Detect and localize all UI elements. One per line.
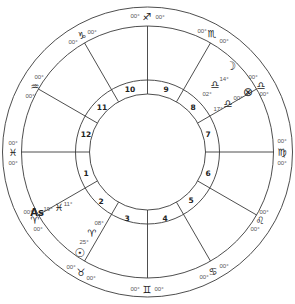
degree-label: 19° [43,206,53,212]
degree-label: 08° [94,220,104,226]
sign-scorpio: ♏︎00°00° [197,28,229,45]
taurus-icon: ♉︎ [77,267,86,278]
house-number-1: 1 [83,169,88,178]
house-number-2: 2 [98,197,103,206]
house-numbers: 123456789101112 [81,85,211,223]
placement-pisces-marker: ♓︎19°11° [43,201,72,213]
house-cusp-line [85,43,119,102]
sign-taurus: ♉︎00°00° [66,264,96,281]
libra-marker-1-icon: ♎︎ [211,79,220,90]
planet-placements: ☽︎14°♎︎02°⊗︎00°♎︎17°☉︎25°♈︎08°♓︎19°11° [43,59,253,260]
degree-label: 00° [130,286,140,292]
degree-label: 00° [259,91,269,97]
placement-aries-marker: ♈︎08° [88,220,105,239]
aquarius-icon: ♒︎ [31,81,40,92]
degree-label: 00° [130,13,140,19]
degree-label: 00° [25,93,35,99]
house-number-7: 7 [205,130,210,139]
house-number-4: 4 [162,214,167,223]
degree-label: 00° [8,160,18,166]
sign-gemini: ♊︎00°00° [130,284,164,295]
degree-label: 00° [250,226,260,232]
degree-label: 00° [277,138,287,144]
leo-icon: ♌︎ [256,215,265,226]
sign-capricorn: ♑︎00°00° [68,29,97,45]
house-number-3: 3 [124,214,129,223]
degree-label: 25° [79,239,89,245]
degree-label: 00° [66,264,76,270]
degree-label: 00° [219,38,229,44]
degree-label: 00° [34,74,44,80]
placement-libra-marker-1: ♎︎02° [202,79,219,98]
house-cusp-line [177,202,211,261]
sign-cancer: ♋︎00°00° [199,263,229,280]
pisces-icon: ♓︎ [9,147,18,158]
degree-label: 00° [259,209,269,215]
degree-label: 02° [202,91,212,97]
house-cusp-line [198,181,257,215]
house-number-10: 10 [125,85,135,94]
part-of-fortune-icon: ⊗︎ [243,85,253,99]
placement-moon: ☽︎14° [219,59,236,82]
degree-label: 00° [68,39,78,45]
degree-label: 00° [277,160,287,166]
degree-label: 00° [199,274,209,280]
degree-label: 00° [33,226,43,232]
degree-label: 17° [213,106,223,112]
degree-label: 00° [8,140,18,146]
degree-label: 00° [233,95,243,101]
libra-icon: ♎︎ [257,80,266,91]
house-cusp-line [38,89,97,123]
capricorn-icon: ♑︎ [78,30,87,41]
ascendant-marker: As [30,207,44,218]
placement-part-of-fortune: ⊗︎00° [233,85,253,101]
virgo-icon: ♍︎ [278,147,287,158]
degree-label: 00° [197,28,207,34]
degree-label: 00° [248,74,258,80]
sign-pisces: ♓︎00°00° [8,140,18,166]
degree-label: 00° [219,263,229,269]
ascendant-label: As [30,207,44,218]
placement-libra-marker-2: ♎︎17° [213,98,232,113]
gemini-icon: ♊︎ [143,284,152,295]
sign-sagittarius: ♐︎00°00° [130,11,165,22]
sign-virgo: ♍︎00°00° [277,138,287,166]
scorpio-icon: ♏︎ [208,28,217,39]
pisces-marker-icon: ♓︎ [55,202,64,213]
house-number-5: 5 [188,196,193,205]
house-number-8: 8 [190,103,195,112]
aries-marker-icon: ♈︎ [88,228,97,239]
sun-icon: ☉︎ [75,246,86,260]
house-number-11: 11 [97,103,107,112]
degree-label: 11° [64,201,73,207]
sagittarius-icon: ♐︎ [143,11,152,22]
libra-marker-2-icon: ♎︎ [224,98,233,109]
degree-label: 00° [154,286,164,292]
degree-label: 14° [219,76,229,82]
moon-icon: ☽︎ [226,59,237,73]
degree-label: 00° [155,14,165,20]
house-number-12: 12 [81,130,91,139]
house-number-6: 6 [205,169,210,178]
house-number-9: 9 [163,85,168,94]
degree-label: 00° [87,29,97,35]
astrology-chart-wheel: 123456789101112 ♐︎00°00°♑︎00°00°♒︎00°00°… [0,0,295,304]
cancer-icon: ♋︎ [209,266,218,277]
degree-label: 00° [86,275,96,281]
